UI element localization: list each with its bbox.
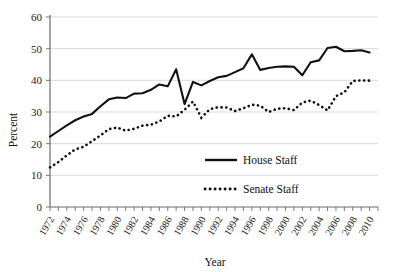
x-axis-tick-labels: 1972197419761978198019821984198619881990… xyxy=(37,215,376,238)
series-line-senate-staff xyxy=(50,80,370,167)
x-tick-label: 2000 xyxy=(272,215,292,238)
x-tick-label: 1996 xyxy=(239,215,259,238)
x-tick-label: 1980 xyxy=(104,215,124,238)
y-tick-label: 0 xyxy=(37,201,43,213)
gridlines xyxy=(50,17,378,175)
y-tick-label: 40 xyxy=(31,74,43,86)
legend-label-house-staff: House Staff xyxy=(243,154,298,166)
legend-label-senate-staff: Senate Staff xyxy=(243,183,299,195)
x-tick-label: 1982 xyxy=(121,215,141,238)
y-tick-label: 30 xyxy=(31,106,43,118)
x-tick-label: 1998 xyxy=(255,215,275,238)
y-tick-label: 50 xyxy=(31,43,43,55)
x-tick-label: 1984 xyxy=(138,215,158,238)
y-axis-tick-labels: 0102030405060 xyxy=(31,11,43,213)
x-tick-label: 2002 xyxy=(289,215,309,238)
legend: House Staff Senate Staff xyxy=(205,154,299,195)
x-tick-label: 1976 xyxy=(70,215,90,238)
line-chart: 0102030405060 19721974197619781980198219… xyxy=(0,0,394,272)
x-tick-label: 2006 xyxy=(323,215,343,238)
y-tick-label: 10 xyxy=(31,169,43,181)
x-tick-label: 1978 xyxy=(87,215,107,238)
x-tick-label: 1974 xyxy=(54,215,74,238)
x-tick-label: 1972 xyxy=(37,215,57,238)
x-tick-label: 1990 xyxy=(188,215,208,238)
x-tick-label: 1992 xyxy=(205,215,225,238)
y-tick-label: 60 xyxy=(31,11,43,23)
y-tick-label: 20 xyxy=(31,138,43,150)
x-tick-label: 1986 xyxy=(154,215,174,238)
x-axis-title: Year xyxy=(204,256,225,268)
series-line-house-staff xyxy=(50,47,370,137)
x-tick-label: 2004 xyxy=(306,215,326,238)
x-tick-label: 2010 xyxy=(356,215,376,238)
x-tick-label: 1988 xyxy=(171,215,191,238)
x-tick-label: 2008 xyxy=(339,215,359,238)
x-tick-label: 1994 xyxy=(222,215,242,238)
chart-container: 0102030405060 19721974197619781980198219… xyxy=(0,0,394,272)
x-axis-tickmarks xyxy=(50,207,378,211)
y-axis-title: Percent xyxy=(7,112,19,147)
